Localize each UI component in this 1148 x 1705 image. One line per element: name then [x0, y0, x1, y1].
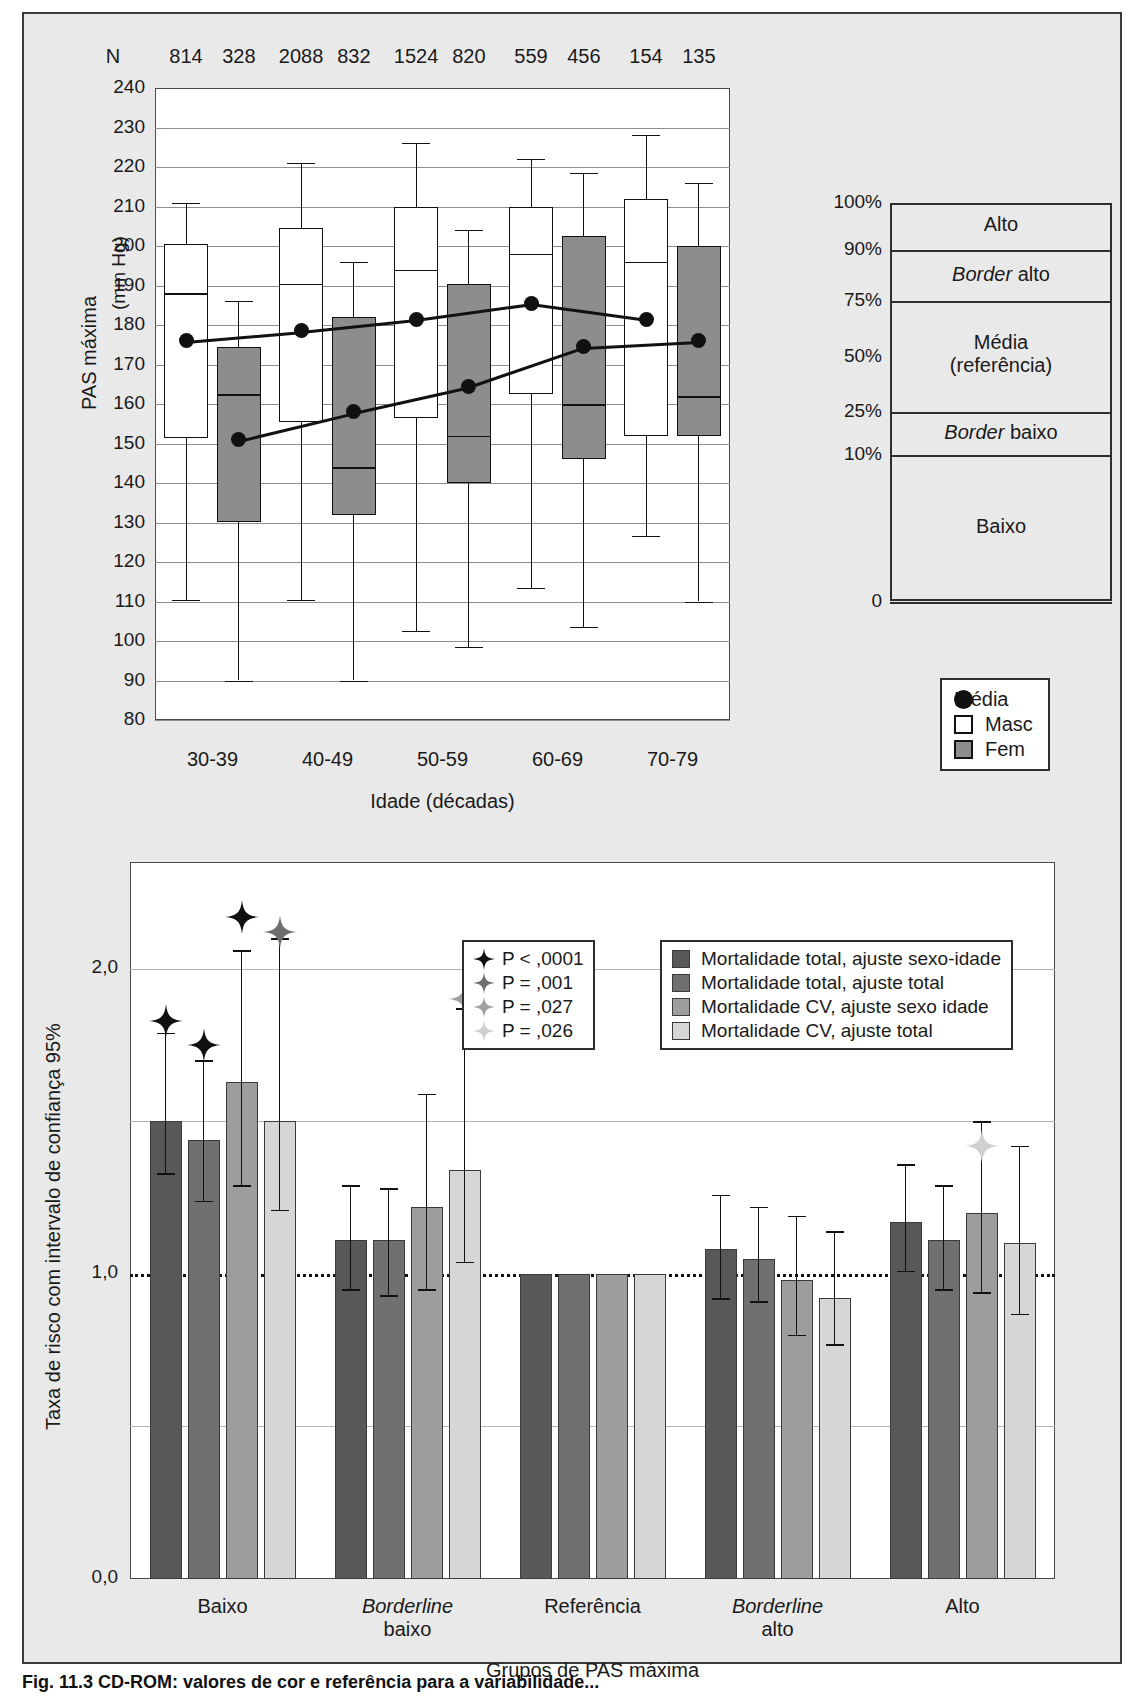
legend-item: P = ,027 — [473, 995, 584, 1019]
gridline — [155, 562, 730, 563]
y-tick-label: 240 — [93, 76, 145, 98]
significance-star — [149, 1004, 183, 1038]
color-swatch — [672, 974, 690, 992]
star-icon — [473, 996, 495, 1018]
bar — [520, 1274, 552, 1579]
y-tick-label: 100 — [93, 629, 145, 651]
legend-item: Mortalidade total, ajuste total — [672, 971, 1001, 995]
n-value: 135 — [659, 45, 739, 68]
color-swatch — [672, 998, 690, 1016]
whisker-cap-top — [632, 135, 660, 136]
error-cap-bottom — [826, 1344, 844, 1346]
percentile-rule — [890, 203, 1112, 205]
boxplot-legend: MédiaMascFem — [940, 678, 1050, 771]
median-line — [394, 270, 438, 272]
x-tick-label: Borderlinealto — [678, 1595, 878, 1641]
error-cap-bottom — [342, 1289, 360, 1291]
error-cap-bottom — [233, 1185, 251, 1187]
error-cap-top — [233, 950, 251, 952]
whisker-cap-top — [287, 163, 315, 164]
error-cap-top — [750, 1207, 768, 1209]
error-cap-top — [788, 1216, 806, 1218]
error-cap-bottom — [195, 1201, 213, 1203]
legend-item: Masc — [954, 712, 1036, 737]
percentile-rule — [890, 301, 1112, 303]
error-cap-top — [342, 1185, 360, 1187]
percentile-band-label: Baixo — [890, 515, 1112, 538]
median-line — [677, 396, 721, 398]
y-tick-label: 210 — [93, 195, 145, 217]
whisker-cap-bottom — [402, 631, 430, 632]
whisker-cap-bottom — [632, 536, 660, 537]
whisker-cap-bottom — [340, 681, 368, 682]
legend-item: P = ,026 — [473, 1019, 584, 1043]
legend-label: Fem — [985, 738, 1025, 761]
median-line — [332, 467, 376, 469]
percentile-rule — [890, 455, 1112, 457]
significance-star — [187, 1028, 221, 1062]
whisker-cap-top — [172, 203, 200, 204]
color-swatch — [672, 1022, 690, 1040]
mean-marker — [524, 296, 539, 311]
error-cap-bottom — [380, 1295, 398, 1297]
y-tick-label: 120 — [93, 550, 145, 572]
legend-label: P = ,026 — [502, 1020, 573, 1042]
median-line — [279, 284, 323, 286]
bar — [928, 1240, 960, 1579]
y-tick-label: 230 — [93, 116, 145, 138]
bar — [634, 1274, 666, 1579]
error-bar — [388, 1188, 390, 1295]
x-axis-title: Idade (décadas) — [155, 790, 730, 813]
square-white-swatch — [954, 715, 973, 734]
error-cap-top — [380, 1188, 398, 1190]
percentile-rule — [890, 412, 1112, 414]
median-line — [509, 254, 553, 256]
error-cap-bottom — [788, 1335, 806, 1337]
y-tick-label: 150 — [93, 432, 145, 454]
y-tick-label: 140 — [93, 471, 145, 493]
legend-label: P = ,027 — [502, 996, 573, 1018]
median-line — [624, 262, 668, 264]
legend-label: Mortalidade total, ajuste sexo-idade — [701, 948, 1001, 970]
bar — [890, 1222, 922, 1579]
dot-swatch — [954, 690, 973, 709]
error-cap-bottom — [712, 1298, 730, 1300]
percentile-label: 75% — [802, 289, 882, 311]
error-bar — [834, 1231, 836, 1344]
error-cap-bottom — [897, 1271, 915, 1273]
percentile-label: 0 — [802, 590, 882, 612]
bar — [188, 1140, 220, 1579]
y-axis-unit: (mm Hg) — [108, 236, 130, 310]
whisker-cap-top — [517, 159, 545, 160]
n-row-label: N — [83, 45, 143, 68]
median-line — [447, 436, 491, 438]
legend-label: Mortalidade CV, ajuste sexo idade — [701, 996, 989, 1018]
error-bar — [943, 1185, 945, 1289]
whisker-cap-top — [685, 183, 713, 184]
percentile-label: 100% — [802, 191, 882, 213]
gridline — [155, 128, 730, 129]
error-cap-top — [897, 1164, 915, 1166]
legend-item: P = ,001 — [473, 971, 584, 995]
whisker-cap-top — [402, 143, 430, 144]
whisker-cap-top — [570, 173, 598, 174]
error-bar — [905, 1164, 907, 1271]
error-cap-bottom — [973, 1292, 991, 1294]
percentile-band-label: Alto — [890, 213, 1112, 236]
mean-marker — [179, 333, 194, 348]
percentile-label: 50% — [802, 345, 882, 367]
percentile-label: 10% — [802, 443, 882, 465]
median-line — [164, 293, 208, 295]
error-cap-bottom — [157, 1173, 175, 1175]
percentile-band-label: Média(referência) — [890, 331, 1112, 377]
percentile-rule — [890, 250, 1112, 252]
error-cap-top — [712, 1195, 730, 1197]
bar — [335, 1240, 367, 1579]
y-tick-label: 110 — [93, 590, 145, 612]
bar — [150, 1121, 182, 1579]
figure-page: 2402302202102001901801701601501401301201… — [0, 0, 1148, 1705]
y-axis-title: PAS máxima — [78, 296, 101, 410]
y-tick-label: 2,0 — [52, 956, 118, 978]
bar — [596, 1274, 628, 1579]
whisker-cap-bottom — [685, 602, 713, 603]
